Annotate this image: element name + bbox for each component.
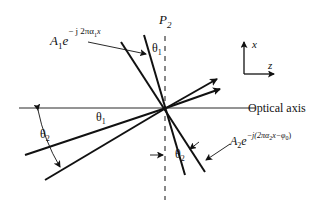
theta2-left-label: θ2	[40, 127, 50, 143]
wave2-expression: A2e−j(2πα2x−φ0)	[229, 131, 292, 150]
theta2-bottom-label: θ2	[175, 147, 185, 163]
optics-diagram: P2 x z Optical axis A1e− j 2πα1x A2e−j(2…	[0, 0, 317, 202]
wave1-expression: A1e− j 2πα1x	[49, 26, 101, 51]
wave1-ray-outer	[121, 42, 205, 172]
theta2-bottom-tick-arrow	[190, 142, 199, 149]
theta1-axis-label: θ1	[96, 110, 106, 126]
wave1-label-pointer	[88, 42, 146, 54]
optical-axis-label: Optical axis	[248, 101, 306, 115]
z-axis-label: z	[267, 59, 273, 71]
theta1-top-label: θ1	[152, 41, 162, 57]
wave2-label-pointer	[206, 144, 230, 160]
x-axis-label: x	[251, 38, 257, 50]
plane-p2-label: P2	[158, 12, 172, 30]
